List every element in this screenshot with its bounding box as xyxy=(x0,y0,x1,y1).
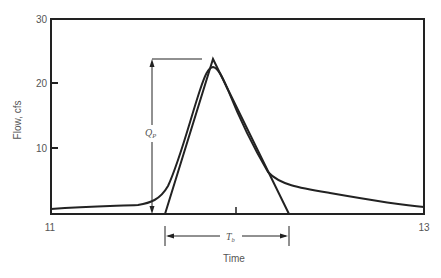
y-tick-label-10: 10 xyxy=(36,143,48,154)
qp-arrow-up-icon xyxy=(150,59,155,67)
x-axis-title: Time xyxy=(223,253,245,264)
x-tick-label-11: 11 xyxy=(45,222,56,233)
y-tick-label-20: 20 xyxy=(36,78,48,89)
qp-arrow-down-icon xyxy=(150,206,155,214)
triangle-approximation xyxy=(165,59,289,214)
tb-label: Tb xyxy=(226,231,236,243)
plot-frame xyxy=(51,19,424,214)
y-axis-title: Flow, cfs xyxy=(12,101,23,140)
tb-arrow-right-icon xyxy=(280,234,288,239)
x-tick-label-13: 13 xyxy=(418,222,430,233)
hydrograph-chart: 30 20 10 11 13 Flow, cfs Time QP Tb xyxy=(0,0,441,278)
hydrograph-curve xyxy=(51,67,424,209)
y-tick-label-30: 30 xyxy=(36,14,48,25)
tb-arrow-left-icon xyxy=(166,234,174,239)
qp-label: QP xyxy=(145,127,156,139)
